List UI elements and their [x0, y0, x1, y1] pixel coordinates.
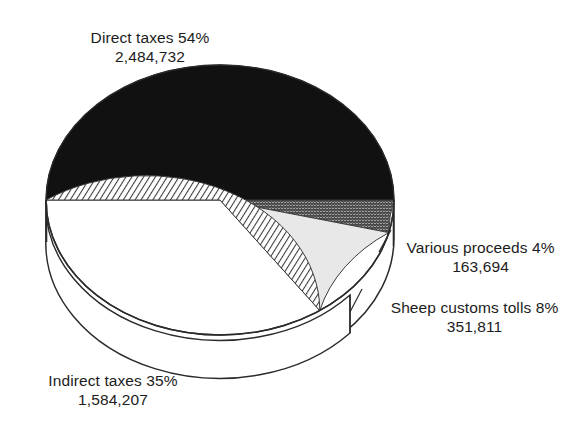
pie-top-face [46, 65, 394, 335]
label-various-proceeds-line1: Various proceeds 4% [383, 238, 578, 257]
label-direct-taxes: Direct taxes 54% 2,484,732 [55, 28, 245, 66]
label-various-proceeds: Various proceeds 4% 163,694 [383, 238, 578, 276]
label-various-proceeds-value: 163,694 [383, 257, 578, 276]
label-direct-taxes-value: 2,484,732 [55, 47, 245, 66]
label-indirect-taxes-line1: Indirect taxes 35% [18, 371, 208, 390]
pie-chart: Direct taxes 54% 2,484,732 Various proce… [0, 0, 583, 439]
label-sheep-customs-tolls: Sheep customs tolls 8% 351,811 [371, 298, 578, 336]
label-indirect-taxes: Indirect taxes 35% 1,584,207 [18, 371, 208, 409]
label-direct-taxes-line1: Direct taxes 54% [55, 28, 245, 47]
label-sheep-customs-tolls-line1: Sheep customs tolls 8% [371, 298, 578, 317]
label-sheep-customs-tolls-value: 351,811 [371, 317, 578, 336]
label-indirect-taxes-value: 1,584,207 [18, 390, 208, 409]
slice-direct-taxes[interactable] [46, 65, 394, 200]
